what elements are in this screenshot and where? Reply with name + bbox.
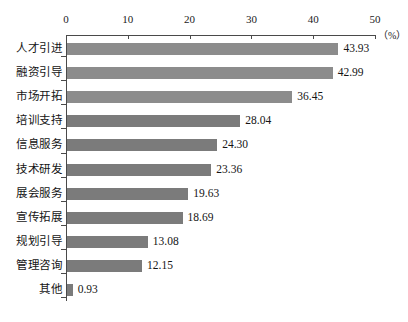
bar-value-label: 19.63 <box>193 187 219 200</box>
bar <box>67 260 142 272</box>
category-label: 规划引导 <box>0 235 62 248</box>
bar-chart: 01020304050 （%） 人才引进43.93融资引导42.99市场开拓36… <box>0 0 408 322</box>
bar-value-label: 36.45 <box>297 90 323 103</box>
bar-value-label: 43.93 <box>343 42 369 55</box>
category-label: 融资引导 <box>0 66 62 79</box>
bar-row: 规划引导13.08 <box>0 229 408 255</box>
bar <box>67 91 292 103</box>
x-axis-tick-label: 20 <box>184 14 195 25</box>
bar-value-label: 42.99 <box>338 66 364 79</box>
bar <box>67 115 240 127</box>
bar-value-label: 23.36 <box>216 163 242 176</box>
bar-row: 技术研发23.36 <box>0 157 408 183</box>
bar <box>67 236 148 248</box>
bar <box>67 284 73 296</box>
category-label: 市场开拓 <box>0 90 62 103</box>
bar-row: 融资引导42.99 <box>0 60 408 86</box>
x-axis-tick-label: 30 <box>246 14 257 25</box>
bar-row: 其他0.93 <box>0 277 408 303</box>
category-label: 展会服务 <box>0 187 62 200</box>
x-axis-tick-label: 40 <box>308 14 319 25</box>
bar-row: 展会服务19.63 <box>0 181 408 207</box>
x-axis-tick-label: 10 <box>122 14 133 25</box>
category-label: 人才引进 <box>0 42 62 55</box>
bar <box>67 67 333 79</box>
bar-value-label: 18.69 <box>188 211 214 224</box>
bar-row: 人才引进43.93 <box>0 36 408 62</box>
bar-row: 信息服务24.30 <box>0 132 408 158</box>
category-label: 其他 <box>0 283 62 296</box>
bar <box>67 139 217 151</box>
x-axis-tick-label: 50 <box>370 14 381 25</box>
bar-value-label: 0.93 <box>78 283 98 296</box>
bar-row: 市场开拓36.45 <box>0 84 408 110</box>
x-axis-tick-label: 0 <box>63 14 69 25</box>
bar-row: 宣传拓展18.69 <box>0 205 408 231</box>
bar <box>67 43 338 55</box>
bar <box>67 164 211 176</box>
bar-value-label: 28.04 <box>245 114 271 127</box>
category-label: 信息服务 <box>0 138 62 151</box>
category-label: 宣传拓展 <box>0 211 62 224</box>
bar-value-label: 12.15 <box>147 259 173 272</box>
category-label: 技术研发 <box>0 163 62 176</box>
bar-value-label: 24.30 <box>222 138 248 151</box>
bar <box>67 212 183 224</box>
bar-row: 培训支持28.04 <box>0 108 408 134</box>
bar-row: 管理咨询12.15 <box>0 253 408 279</box>
bar <box>67 188 188 200</box>
category-label: 培训支持 <box>0 114 62 127</box>
category-label: 管理咨询 <box>0 259 62 272</box>
bar-value-label: 13.08 <box>153 235 179 248</box>
